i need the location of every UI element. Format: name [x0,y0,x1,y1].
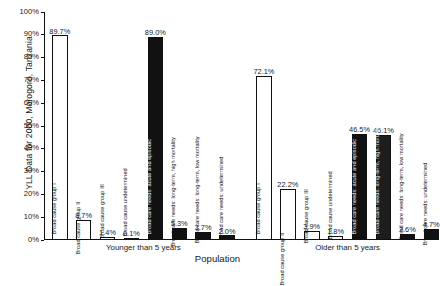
bar: 4.7%Broad care needs: undetermined [424,229,440,240]
y-tick-mark [41,171,44,172]
bar-category-label: Broad care needs: long-term, high mortal… [171,138,177,247]
bar-value-label: 22.2% [277,181,298,188]
bar: 1.8%Broad cause undetermined [328,236,344,240]
y-tick-mark [41,217,44,218]
bar: 72.1%Broad cause group I [256,76,272,240]
y-tick-label: 40% [24,143,39,152]
bar-category-label: Broad cause group I [255,184,261,235]
y-tick-label: 10% [24,212,39,221]
bar: 89.7%Broad cause group I [52,35,68,240]
bar: 22.2%Broad cause group II [280,189,296,240]
bar-category-label: Broad care needs: acute and episodic [351,139,357,235]
y-tick-label: 100% [20,7,39,16]
y-tick-mark [41,148,44,149]
bar-value-label: 46.5% [349,126,370,133]
y-tick-label: 50% [24,121,39,130]
y-tick-mark [41,103,44,104]
bar-category-label: Broad cause group III [303,189,309,244]
y-tick-mark [41,12,44,13]
group-label: Older than 5 years [315,243,380,252]
y-tick-label: 20% [24,189,39,198]
bar: 3.9%Broad cause group III [304,231,320,240]
bar-value-label: 89.0% [145,29,166,36]
y-tick-mark [41,34,44,35]
bar: 5.3%Broad care needs: long-term, high mo… [172,228,188,240]
bar-category-label: Broad cause group I [51,184,57,235]
y-tick-label: 30% [24,166,39,175]
y-tick-label: 80% [24,52,39,61]
bar: 1.4%Broad cause group III [100,237,116,240]
bar-category-label: Broad care needs: undetermined [219,157,225,240]
bar-category-label: Broad care needs: long-term, low mortali… [399,134,405,241]
bar-category-label: Broad cause undetermined [327,171,333,239]
bar: 3.7%Broad care needs: long-term, low mor… [195,232,211,240]
y-tick-label: 60% [24,98,39,107]
y-tick-mark [41,126,44,127]
y-tick-label: 90% [24,29,39,38]
y-tick-mark [41,194,44,195]
bar: 46.1%Broad care needs: long-term, high m… [376,135,392,240]
group-label: Younger than 5 years [106,243,181,252]
bar-category-label: Broad cause group III [99,184,105,239]
y-tick-mark [41,57,44,58]
bar-value-label: 72.1% [253,68,274,75]
y-tick-mark [41,80,44,81]
bar-value-label: 89.7% [49,28,70,35]
bar-category-label: Broad care needs: long-term, high mortal… [375,126,381,235]
x-axis-title: Population [0,253,435,264]
bar: 8.7%Broad cause group II [76,220,92,240]
bar: 2.0%Broad care needs: undetermined [219,235,235,240]
bar-category-label: Broad cause group II [75,202,81,255]
bar-category-label: Broad care needs: long-term, low mortali… [195,136,201,243]
bar: 89.0%Broad care needs: acute and episodi… [148,37,164,240]
bar-category-label: Broad care needs: acute and episodic [147,139,153,235]
bar: 0.1%Broad cause undetermined [124,238,140,240]
plot-area: 0%10%20%30%40%50%60%70%80%90%100% 89.7%B… [44,12,430,240]
y-tick-label: 70% [24,75,39,84]
bar-category-label: Broad care needs: undetermined [423,163,429,246]
y-tick-label: 0% [28,235,39,244]
y-tick-mark [41,240,44,241]
bar: 2.6%Broad care needs: long-term, low mor… [400,234,416,240]
y-axis-line [44,12,45,240]
bar: 46.5%Broad care needs: acute and episodi… [352,134,368,240]
bar-category-label: Broad cause undetermined [123,168,129,236]
